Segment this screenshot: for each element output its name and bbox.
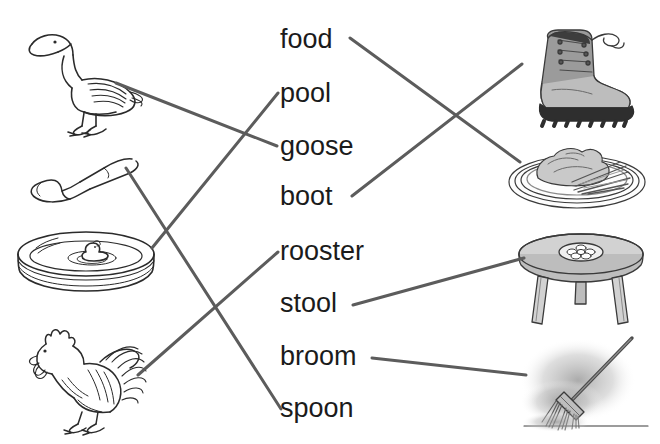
stool-line [353,258,524,305]
spoon-line [126,168,281,409]
worksheet-page: food pool goose boot rooster stool broom… [0,0,660,444]
food-line [350,38,520,162]
rooster-line [138,252,278,375]
boot-line [352,64,522,196]
goose-line [116,83,277,146]
connector-lines [0,0,660,444]
broom-line [372,358,526,375]
pool-line [152,93,278,248]
